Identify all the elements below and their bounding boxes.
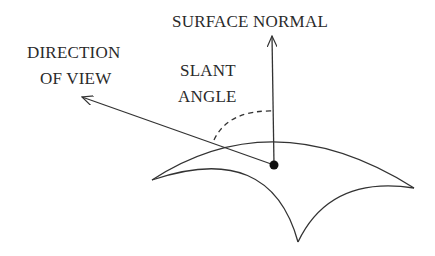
surface-normal-label: SURFACE NORMAL xyxy=(172,13,328,30)
diagram-canvas xyxy=(0,0,435,256)
direction-of-view-label-line2: OF VIEW xyxy=(40,70,111,87)
surface-normal-arrow xyxy=(272,36,274,165)
view-direction-arrow xyxy=(82,97,274,165)
slant-angle-label-line1: SLANT xyxy=(180,62,236,79)
surface-upper-edge xyxy=(152,142,414,188)
slant-angle-label-line2: ANGLE xyxy=(178,88,237,105)
slant-angle-arc xyxy=(214,111,273,140)
surface-patch xyxy=(152,142,414,242)
slant-angle-diagram: SURFACE NORMAL DIRECTION OF VIEW SLANT A… xyxy=(0,0,435,256)
surface-lower-left-edge xyxy=(152,169,298,242)
surface-lower-right-edge xyxy=(298,186,414,242)
surface-point-dot xyxy=(270,161,279,170)
direction-of-view-label-line1: DIRECTION xyxy=(27,44,120,61)
